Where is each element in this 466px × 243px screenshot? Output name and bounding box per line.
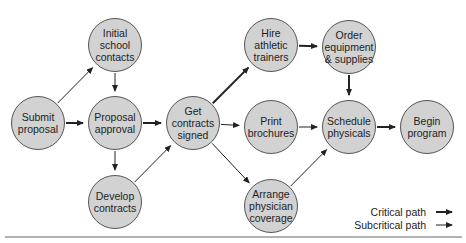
node-submit: Submit proposal: [11, 96, 65, 150]
edge-arrange-to-schedule: [291, 150, 327, 186]
node-print: Print brochures: [244, 100, 298, 154]
edge-get-to-print: [221, 124, 239, 125]
node-hire: Hire athletic trainers: [244, 18, 298, 72]
node-develop: Develop contracts: [88, 175, 142, 229]
legend-subcritical-label: Subcritical path: [354, 219, 426, 231]
legend-critical-label: Critical path: [371, 206, 426, 218]
node-proposal: Proposal approval: [88, 96, 142, 150]
node-order: Order equipment & supplies: [322, 20, 376, 74]
node-initial: Initial school contacts: [88, 18, 142, 72]
node-get: Get contracts signed: [166, 96, 220, 150]
edge-get-to-arrange: [212, 143, 249, 182]
edge-submit-to-initial: [58, 68, 93, 103]
node-arrange: Arrange physician coverage: [244, 179, 298, 233]
node-begin: Begin program: [400, 100, 454, 154]
edge-get-to-hire: [213, 68, 249, 104]
node-schedule: Schedule physicals: [322, 100, 376, 154]
edge-develop-to-get: [135, 146, 171, 182]
